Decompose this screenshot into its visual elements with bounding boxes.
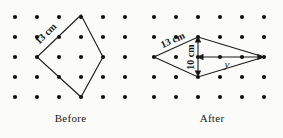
after-side-label: 13 cm xyxy=(159,29,187,50)
before-side-label: 13 cm xyxy=(33,20,59,46)
panel-before: 13 cm Before xyxy=(0,0,141,138)
caption-after: After xyxy=(141,112,283,124)
after-horizontal-label: y xyxy=(224,58,230,70)
after-vertical-label: 10 cm xyxy=(185,44,196,70)
panel-after: 13 cm 10 cm y After xyxy=(141,0,283,138)
before-side-label-group: 13 cm xyxy=(33,20,59,46)
after-side-label-group: 13 cm xyxy=(159,29,187,50)
before-diagram: 13 cm xyxy=(0,0,141,112)
caption-before: Before xyxy=(0,112,141,124)
after-vertical-label-group: 10 cm xyxy=(185,44,196,70)
after-diagram: 13 cm 10 cm y xyxy=(141,0,283,112)
figure-container: 13 cm Before xyxy=(0,0,283,138)
